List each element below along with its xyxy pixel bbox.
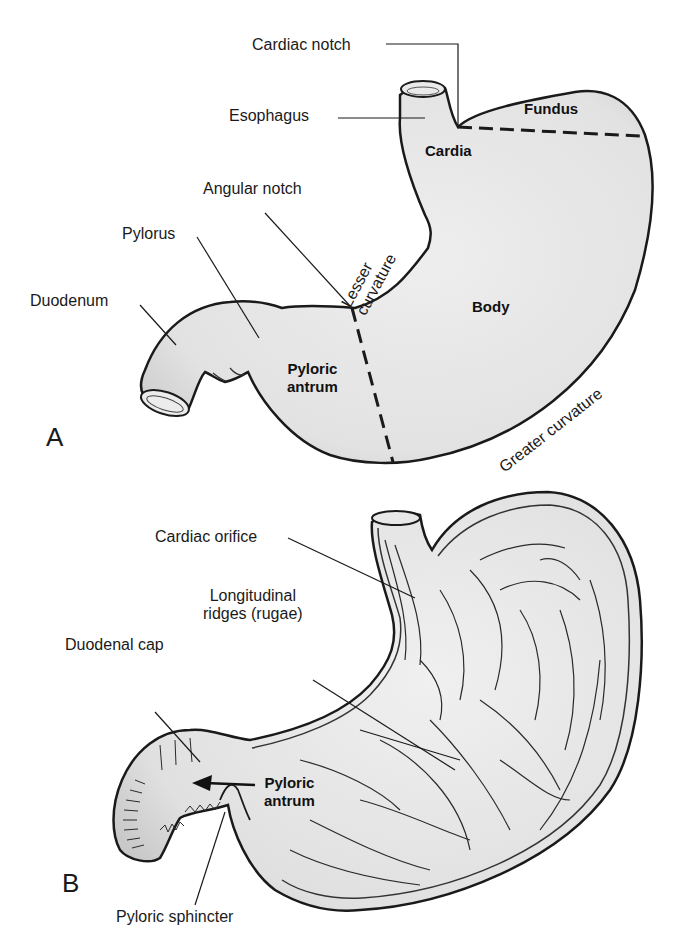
label-cardia: Cardia — [425, 142, 472, 160]
label-angular-notch: Angular notch — [203, 180, 302, 198]
label-pylorus: Pylorus — [122, 225, 175, 243]
label-longitudinal-ridges: Longitudinal ridges (rugae) — [203, 587, 303, 623]
panel-label-a: A — [46, 422, 63, 453]
label-fundus: Fundus — [524, 100, 578, 118]
rugae-line1: Longitudinal — [203, 587, 303, 605]
label-body: Body — [472, 298, 510, 316]
label-pyloric-antrum-a: Pyloric antrum — [287, 360, 338, 396]
pyloric-antrum-b-line1: Pyloric — [264, 774, 315, 792]
stomach-diagram — [0, 0, 683, 949]
label-pyloric-sphincter: Pyloric sphincter — [116, 908, 233, 926]
pyloric-antrum-b-line2: antrum — [264, 792, 315, 810]
panel-label-b: B — [62, 868, 79, 899]
label-duodenum: Duodenum — [30, 292, 108, 310]
rugae-line2: ridges (rugae) — [203, 605, 303, 623]
label-esophagus: Esophagus — [229, 107, 309, 125]
stomach-internal — [114, 492, 642, 911]
pyloric-antrum-a-line2: antrum — [287, 378, 338, 396]
label-cardiac-notch: Cardiac notch — [252, 36, 351, 54]
label-pyloric-antrum-b: Pyloric antrum — [264, 774, 315, 810]
label-duodenal-cap: Duodenal cap — [65, 636, 164, 654]
label-cardiac-orifice: Cardiac orifice — [155, 528, 257, 546]
pyloric-antrum-a-line1: Pyloric — [287, 360, 338, 378]
